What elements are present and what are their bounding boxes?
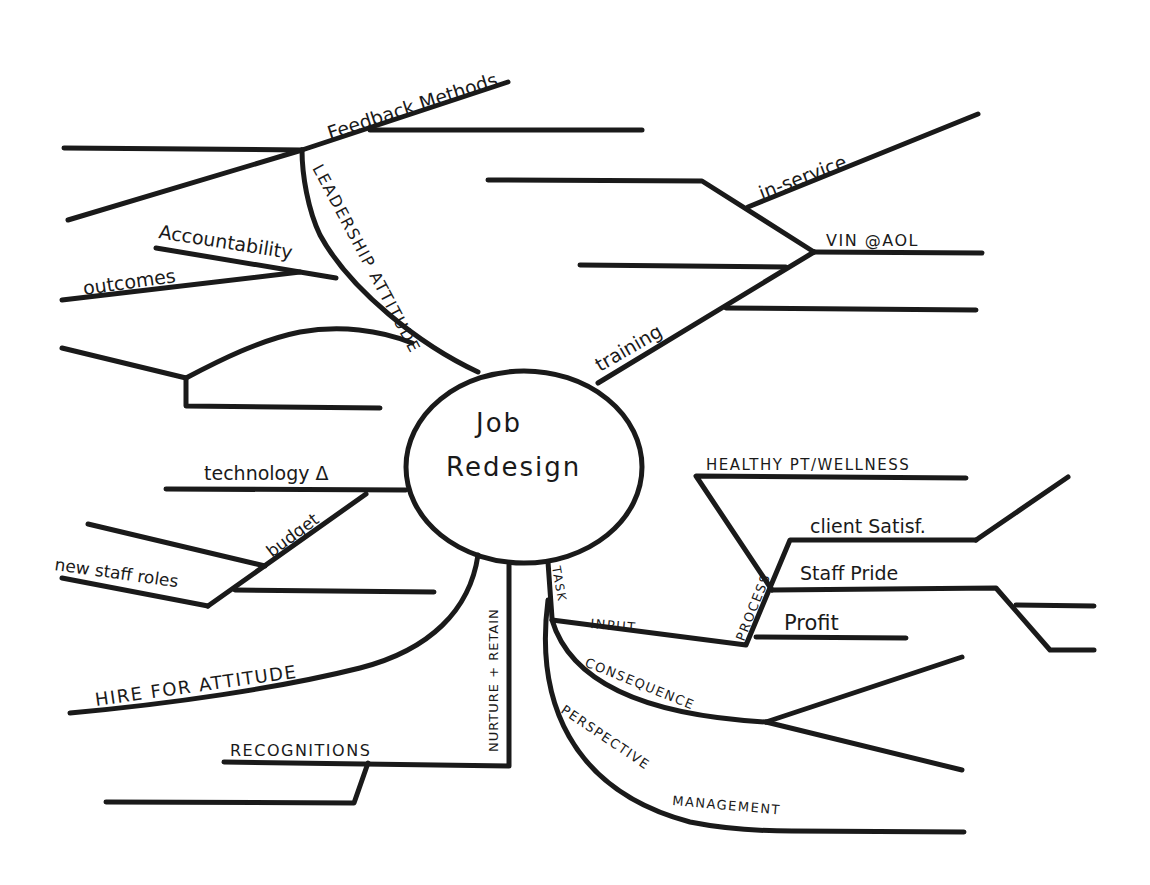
perspective-management-line [545, 600, 964, 832]
training-line [598, 252, 814, 383]
nurture-retain-label: NURTURE + RETAIN [486, 608, 501, 752]
leadership-top-left-line-2 [68, 150, 302, 220]
branch-leadership-attitude: LEADERSHIP ATTITUDE Feedback Methods Acc… [62, 68, 642, 408]
technology-line [166, 489, 406, 490]
consequence-label: CONSEQUENCE [583, 655, 697, 713]
center-node: Job Redesign [406, 371, 642, 563]
budget-lower-right-line [235, 590, 434, 592]
leadership-top-left-line [64, 148, 302, 150]
budget-label: budget [262, 509, 322, 561]
healthy-pt-label: HEALTHY PT/WELLNESS [706, 456, 910, 474]
new-staff-roles-label: new staff roles [53, 554, 179, 591]
technology-label: technology Δ [204, 462, 329, 484]
staff-pride-branch-line [1016, 605, 1094, 606]
management-label-part2: MANAGEMENT [672, 793, 782, 817]
branch-training: training VIN @AOL in-service [488, 114, 982, 383]
branch-budget: technology Δ budget new staff roles [53, 462, 434, 606]
accountability-label: Accountability [157, 220, 294, 263]
input-label: INPUT [590, 616, 637, 635]
client-satisf-extension-line [976, 477, 1068, 540]
in-service-label: in-service [756, 150, 850, 204]
perspective-label-part1: PERSPECTIVE [558, 702, 652, 773]
profit-line [756, 637, 906, 638]
vin-aol-label: VIN @AOL [826, 231, 919, 250]
profit-label: Profit [784, 611, 839, 635]
vin-aol-line [814, 252, 982, 253]
training-mid-line [580, 265, 786, 267]
center-title-line1: Job [474, 408, 522, 438]
consequence-upper-line [766, 657, 962, 722]
leadership-lower-line [186, 329, 412, 378]
recognitions-label: RECOGNITIONS [230, 741, 371, 760]
recognitions-lower-line [106, 763, 368, 803]
mind-map-canvas: Job Redesign LEADERSHIP ATTITUDE Feedbac… [0, 0, 1150, 885]
center-title-line2: Redesign [446, 452, 581, 482]
consequence-lower-line [766, 722, 962, 770]
leadership-lower-bottom-line [186, 378, 380, 408]
leadership-lower-left-line [62, 348, 186, 378]
staff-pride-label: Staff Pride [800, 562, 898, 584]
training-lower-line [726, 308, 976, 310]
budget-upper-left-line [88, 524, 265, 566]
client-satisf-label: client Satisf. [810, 515, 926, 537]
hire-for-attitude-label: HIRE FOR ATTITUDE [94, 661, 299, 710]
